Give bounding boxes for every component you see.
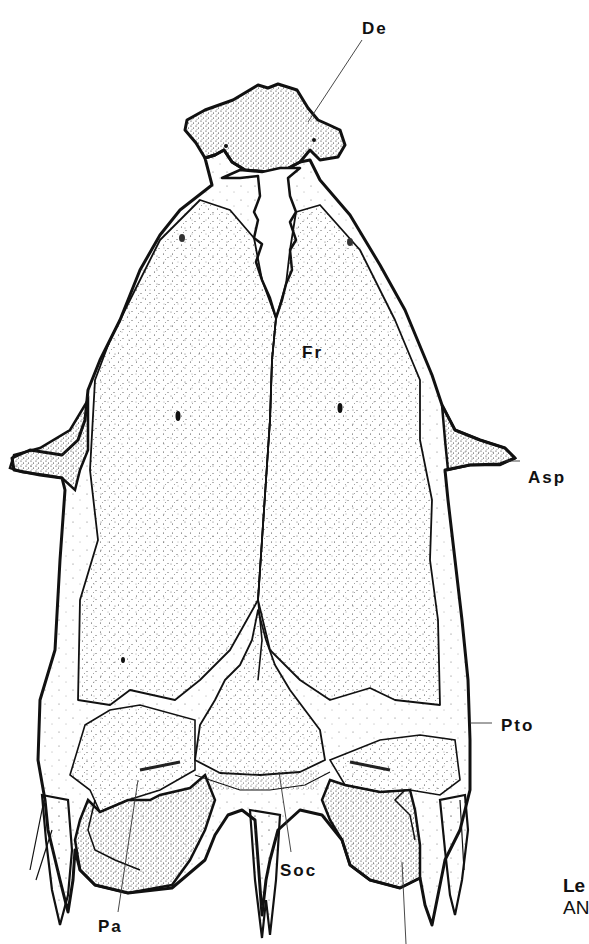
label-supraoccipital: Soc xyxy=(280,862,317,879)
label-autosphenotic: Asp xyxy=(528,469,566,486)
figure-caption: Le AN xyxy=(563,875,589,919)
label-pterotic: Pto xyxy=(501,717,534,734)
label-frontal: Fr xyxy=(302,344,323,361)
caption-line-2: AN xyxy=(563,897,589,919)
caption-line-1: Le xyxy=(563,875,589,897)
label-dermethmoid: De xyxy=(362,20,388,37)
label-parietal: Pa xyxy=(98,918,123,935)
